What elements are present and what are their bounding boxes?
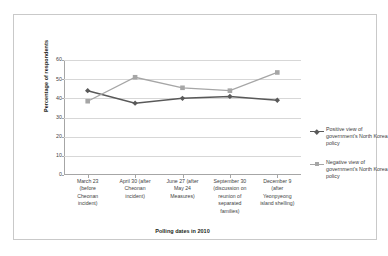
- data-point-marker: [180, 85, 185, 90]
- y-tick-label: 30: [40, 115, 62, 120]
- data-point-marker: [275, 98, 280, 103]
- legend-marker: [315, 162, 320, 167]
- data-point-marker: [180, 96, 185, 101]
- legend-label: Negative view of government's North Kore…: [326, 159, 388, 181]
- data-point-marker: [133, 75, 138, 80]
- data-point-marker: [227, 94, 232, 99]
- y-tick-mark: [62, 79, 64, 80]
- x-axis-title: Polling dates in 2010: [64, 228, 301, 234]
- y-tick-mark: [62, 137, 64, 138]
- x-category-label-line: December 9: [244, 178, 310, 185]
- y-tick-mark: [62, 118, 64, 119]
- plot-area: [64, 60, 301, 175]
- chart-frame: Percentage of respondents 0102030405060 …: [13, 14, 377, 240]
- y-tick-mark: [62, 60, 64, 61]
- legend-label: Positive view of government's North Kore…: [326, 126, 388, 148]
- y-tick-label: 10: [40, 153, 62, 158]
- x-category-label-line: (after: [244, 185, 310, 192]
- data-point-marker: [85, 99, 90, 104]
- x-category-label-line: incident): [55, 200, 121, 207]
- data-point-marker: [85, 88, 90, 93]
- x-category-label-line: families): [197, 208, 263, 215]
- legend-square-icon: [310, 162, 324, 167]
- legend-entry[interactable]: Negative view of government's North Kore…: [310, 159, 388, 181]
- series-lines: [64, 60, 301, 175]
- y-tick-label: 20: [40, 134, 62, 139]
- x-category-label-line: island shelling): [244, 200, 310, 207]
- x-category-label: December 9(afterYeonpyeongisland shellin…: [244, 178, 310, 208]
- data-point-marker: [228, 88, 233, 93]
- y-tick-label: 0: [40, 172, 62, 177]
- legend-marker: [314, 129, 319, 134]
- data-point-marker: [132, 100, 137, 105]
- legend-entry[interactable]: Positive view of government's North Kore…: [310, 126, 388, 148]
- legend-diamond-icon: [310, 129, 324, 134]
- y-tick-label: 50: [40, 77, 62, 82]
- y-tick-mark: [62, 98, 64, 99]
- data-point-marker: [275, 70, 280, 75]
- x-category-label-line: Yeonpyeong: [244, 193, 310, 200]
- y-tick-mark: [62, 175, 64, 176]
- y-tick-label: 60: [40, 57, 62, 62]
- chart-legend: Positive view of government's North Kore…: [310, 126, 388, 191]
- y-tick-label: 40: [40, 96, 62, 101]
- y-tick-mark: [62, 156, 64, 157]
